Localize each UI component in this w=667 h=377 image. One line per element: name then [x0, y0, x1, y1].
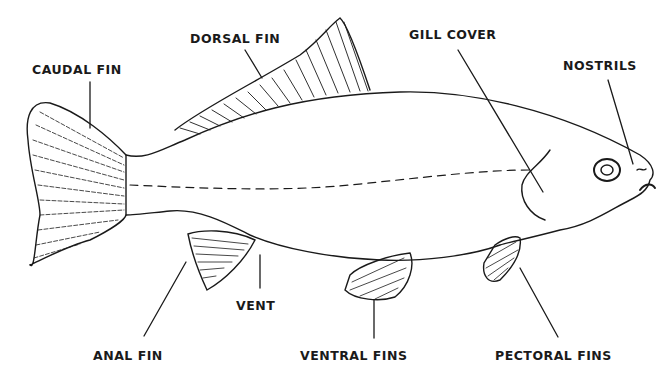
leader-dorsal-fin — [245, 50, 262, 78]
label-dorsal-fin: DORSAL FIN — [190, 31, 280, 46]
label-pectoral-fins: PECTORAL FINS — [495, 348, 612, 363]
label-anal-fin: ANAL FIN — [93, 348, 163, 363]
anal-fin — [188, 231, 255, 290]
label-caudal-fin: CAUDAL FIN — [32, 62, 122, 77]
label-nostrils: NOSTRILS — [563, 58, 637, 73]
label-ventral-fins: VENTRAL FINS — [300, 348, 407, 363]
fish-illustration — [0, 0, 667, 377]
lateral-line — [130, 170, 530, 189]
leader-anal-fin — [144, 262, 186, 336]
caudal-fin — [27, 103, 126, 266]
gill-cover — [522, 150, 550, 220]
eye — [594, 159, 620, 181]
label-gill-cover: GILL COVER — [409, 27, 497, 42]
fish-body-outline — [126, 92, 653, 261]
fish-diagram: CAUDAL FIN DORSAL FIN GILL COVER NOSTRIL… — [0, 0, 667, 377]
leader-pectoral-fins — [520, 268, 558, 337]
leader-nostrils — [608, 80, 633, 164]
label-vent: VENT — [236, 298, 275, 313]
nostril — [637, 169, 646, 170]
